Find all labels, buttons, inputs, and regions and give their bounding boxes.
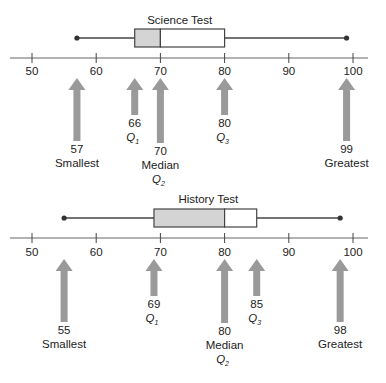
tick-label: 60 xyxy=(90,65,103,77)
tick-label: 50 xyxy=(26,246,39,258)
tick-label: 70 xyxy=(154,65,167,77)
value-label: 69 xyxy=(148,298,161,310)
arrow-greatest xyxy=(332,259,349,322)
stat-label: Greatest xyxy=(325,157,370,169)
value-label: 85 xyxy=(250,298,263,310)
arrow-q3 xyxy=(216,78,233,115)
arrow-q3 xyxy=(248,259,265,296)
tick-label: 100 xyxy=(343,246,362,258)
min-point xyxy=(62,215,67,220)
value-label: 57 xyxy=(71,143,84,155)
arrow-smallest xyxy=(56,259,73,322)
tick-label: 100 xyxy=(343,65,362,77)
value-label: 80 xyxy=(218,325,231,337)
quartile-label: Q1 xyxy=(146,312,159,326)
tick-label: 70 xyxy=(154,246,167,258)
arrow-q1 xyxy=(145,259,162,296)
stat-label: Smallest xyxy=(42,338,87,350)
max-point xyxy=(338,215,343,220)
chart-title: History Test xyxy=(178,193,239,205)
max-point xyxy=(344,35,349,40)
tick-label: 90 xyxy=(282,246,295,258)
quartile-label: Q3 xyxy=(248,312,261,326)
boxplot-history-test xyxy=(10,209,368,243)
box-lower-half xyxy=(135,29,161,47)
value-label: 98 xyxy=(334,324,347,336)
value-label: 99 xyxy=(340,143,353,155)
boxplot-figure: Science Test506070809010057Smallest66Q17… xyxy=(0,0,386,383)
stat-label: Greatest xyxy=(318,338,363,350)
value-label: 55 xyxy=(58,324,71,336)
stat-label: Smallest xyxy=(55,157,100,169)
tick-label: 60 xyxy=(90,246,103,258)
chart-title: Science Test xyxy=(147,14,213,26)
boxplot-science-test xyxy=(10,29,368,63)
tick-label: 80 xyxy=(218,65,231,77)
quartile-label: Q2 xyxy=(152,173,165,187)
arrow-median xyxy=(216,259,233,323)
arrow-smallest xyxy=(68,78,85,141)
stat-label: Median xyxy=(142,159,180,171)
quartile-label: Q2 xyxy=(216,353,229,367)
arrow-q1 xyxy=(126,78,143,115)
tick-label: 90 xyxy=(282,65,295,77)
tick-label: 50 xyxy=(26,65,39,77)
box-upper-half xyxy=(160,29,224,47)
box-lower-half xyxy=(154,209,225,227)
tick-label: 80 xyxy=(218,246,231,258)
quartile-label: Q1 xyxy=(126,131,139,145)
value-label: 80 xyxy=(218,117,231,129)
arrow-median xyxy=(152,78,169,143)
min-point xyxy=(74,35,79,40)
value-label: 66 xyxy=(128,117,141,129)
quartile-label: Q3 xyxy=(216,131,229,145)
arrow-greatest xyxy=(338,78,355,141)
stat-label: Median xyxy=(206,339,244,351)
value-label: 70 xyxy=(154,145,167,157)
box-upper-half xyxy=(225,209,257,227)
